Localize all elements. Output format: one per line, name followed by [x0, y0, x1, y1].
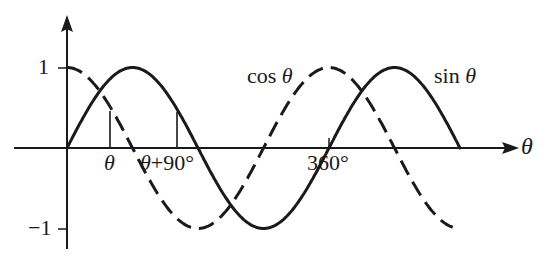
- y-tick-label-1: 1: [38, 56, 49, 78]
- x-tick-label-360: 360°: [307, 152, 349, 174]
- sin-cos-plot: [0, 0, 549, 261]
- cos-legend-label: cos θ: [247, 65, 293, 87]
- x-axis-label: θ: [521, 134, 533, 158]
- theta-label: θ: [104, 152, 115, 174]
- theta-plus-90-theta: θ: [140, 150, 151, 175]
- theta-plus-90-label: θ+90°: [140, 152, 194, 174]
- theta-plus-90-offset: +90°: [151, 150, 194, 175]
- sin-legend-label: sin θ: [434, 65, 476, 87]
- sin-theta: θ: [465, 63, 476, 88]
- y-tick-label-neg1: −1: [28, 217, 51, 239]
- cos-theta: θ: [282, 63, 293, 88]
- sin-text: sin: [434, 63, 460, 88]
- cos-text: cos: [247, 63, 276, 88]
